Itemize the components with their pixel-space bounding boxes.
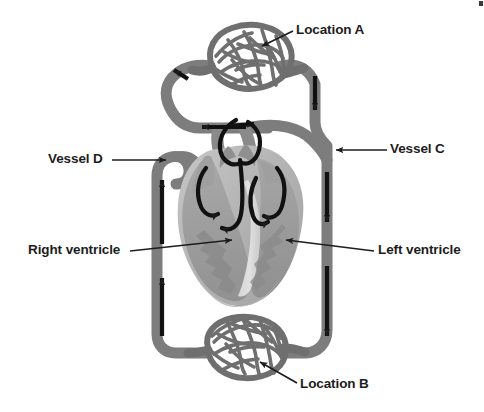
label-vessel-c: Vessel C xyxy=(390,142,445,156)
capillary-bed-bottom xyxy=(188,317,305,378)
label-vessel-d: Vessel D xyxy=(48,152,103,166)
label-location-a: Location A xyxy=(296,23,364,37)
capillary-top-outlet-stub xyxy=(284,68,304,74)
corner-artifact xyxy=(479,1,483,6)
label-right-ventricle: Right ventricle xyxy=(28,243,120,257)
label-location-b: Location B xyxy=(300,377,369,391)
capillary-bottom-outlet-stub xyxy=(283,348,305,352)
capillary-bottom-inlet-stub xyxy=(188,350,208,353)
capillary-top-inlet-stub xyxy=(192,68,212,71)
label-left-ventricle: Left ventricle xyxy=(378,243,461,257)
diagram-canvas: Location A Vessel C Vessel D Right ventr… xyxy=(0,0,484,412)
circulation-diagram xyxy=(0,0,484,412)
